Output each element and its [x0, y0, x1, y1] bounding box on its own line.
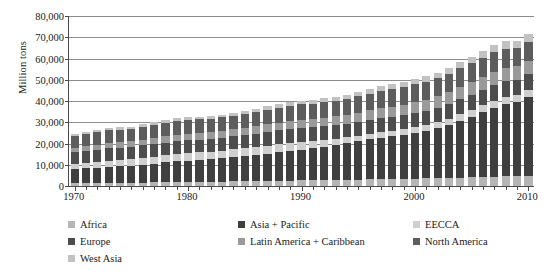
- stacked-bar[interactable]: [207, 116, 215, 186]
- stacked-bar[interactable]: [524, 34, 532, 186]
- stacked-bar[interactable]: [195, 117, 203, 186]
- legend-item[interactable]: Asia + Pacific: [238, 219, 413, 230]
- bar-segment: [275, 123, 283, 131]
- stacked-bar[interactable]: [354, 92, 362, 186]
- stacked-bar[interactable]: [229, 113, 237, 186]
- stacked-bar[interactable]: [411, 79, 419, 186]
- stacked-bar[interactable]: [263, 106, 271, 186]
- stacked-bar[interactable]: [116, 127, 124, 186]
- stacked-bar[interactable]: [513, 41, 521, 186]
- bar-segment: [184, 153, 192, 160]
- y-axis-tick-label: 60,000: [2, 53, 69, 64]
- stacked-bar[interactable]: [332, 97, 340, 186]
- y-axis-tick-label: 50,000: [2, 74, 69, 85]
- x-axis-tick-mark: [279, 186, 280, 190]
- stacked-bar[interactable]: [139, 124, 147, 186]
- stacked-bar[interactable]: [82, 132, 90, 186]
- bar-segment: [479, 90, 487, 106]
- stacked-bar[interactable]: [343, 95, 351, 186]
- stacked-bar[interactable]: [252, 109, 260, 186]
- bar-segment: [524, 90, 532, 97]
- stacked-bar[interactable]: [105, 128, 113, 186]
- legend-item[interactable]: Europe: [68, 236, 238, 247]
- legend-item[interactable]: North America: [413, 236, 533, 247]
- stacked-bar[interactable]: [456, 62, 464, 186]
- legend-item[interactable]: Africa: [68, 219, 238, 230]
- stacked-bar[interactable]: [434, 73, 442, 186]
- stacked-bar[interactable]: [71, 134, 79, 186]
- stacked-bar[interactable]: [422, 76, 430, 186]
- bar-segment: [93, 150, 101, 162]
- stacked-bar[interactable]: [241, 111, 249, 186]
- bar-segment: [127, 159, 135, 166]
- stacked-bar[interactable]: [93, 130, 101, 186]
- stacked-bar[interactable]: [150, 122, 158, 186]
- legend-item[interactable]: West Asia: [68, 253, 238, 264]
- bar-segment: [173, 154, 181, 161]
- bar-segment: [275, 130, 283, 144]
- x-tick-slot: [319, 186, 330, 191]
- stacked-bar[interactable]: [161, 120, 169, 186]
- bar-segment: [411, 102, 419, 113]
- stacked-bar[interactable]: [184, 117, 192, 186]
- y-axis-tick-label: 40,000: [2, 96, 69, 107]
- bar-slot: [477, 16, 488, 186]
- bar-segment: [263, 154, 271, 181]
- x-tick-slot: [489, 186, 500, 191]
- stacked-bar[interactable]: [479, 51, 487, 186]
- stacked-bar[interactable]: [377, 86, 385, 186]
- stacked-bar[interactable]: [218, 115, 226, 186]
- bar-segment: [513, 66, 521, 79]
- bar-segment: [139, 165, 147, 183]
- bar-segment: [116, 148, 124, 160]
- legend-swatch-icon: [413, 221, 420, 228]
- stacked-bar[interactable]: [297, 101, 305, 186]
- x-axis-tick-mark: [165, 186, 166, 190]
- bar-segment: [297, 150, 305, 181]
- stacked-bar[interactable]: [468, 57, 476, 186]
- bar-segment: [241, 114, 249, 128]
- stacked-bar[interactable]: [490, 45, 498, 186]
- x-tick-slot: [160, 186, 171, 191]
- legend-item[interactable]: EECCA: [413, 219, 533, 230]
- bar-segment: [252, 147, 260, 155]
- bar-slot: [114, 16, 125, 186]
- legend-item[interactable]: Latin America + Caribbean: [238, 236, 413, 247]
- stacked-bar[interactable]: [366, 89, 374, 186]
- stacked-bar[interactable]: [320, 98, 328, 186]
- bar-segment: [207, 159, 215, 181]
- y-axis-tick-label: 80,000: [2, 11, 69, 22]
- bar-segment: [184, 134, 192, 141]
- bar-segment: [229, 136, 237, 149]
- bar-segment: [332, 125, 340, 138]
- bar-segment: [161, 123, 169, 137]
- bar-segment: [502, 49, 510, 68]
- stacked-bar[interactable]: [400, 82, 408, 186]
- stacked-bar[interactable]: [173, 118, 181, 186]
- bar-segment: [468, 110, 476, 117]
- bar-segment: [366, 120, 374, 134]
- x-tick-slot: [443, 186, 454, 191]
- bar-segment: [241, 156, 249, 181]
- stacked-bar[interactable]: [309, 100, 317, 186]
- x-axis-tick-mark: [177, 186, 178, 190]
- stacked-bar[interactable]: [275, 104, 283, 186]
- bar-slot: [92, 16, 103, 186]
- stacked-bar[interactable]: [286, 102, 294, 186]
- bar-segment: [195, 152, 203, 160]
- bar-segment: [354, 96, 362, 112]
- stacked-bar[interactable]: [445, 68, 453, 186]
- stacked-bar[interactable]: [388, 84, 396, 186]
- x-tick-slot: [228, 186, 239, 191]
- stacked-bar[interactable]: [127, 127, 135, 186]
- x-axis-tick-mark: [438, 186, 439, 190]
- bar-segment: [422, 111, 430, 126]
- bar-segment: [422, 178, 430, 186]
- bar-slot: [523, 16, 534, 186]
- stacked-bar[interactable]: [502, 41, 510, 186]
- bar-segment: [513, 48, 521, 66]
- bar-segment: [229, 129, 237, 136]
- bar-segment: [434, 178, 442, 186]
- bar-segment: [502, 68, 510, 81]
- bar-slot: [466, 16, 477, 186]
